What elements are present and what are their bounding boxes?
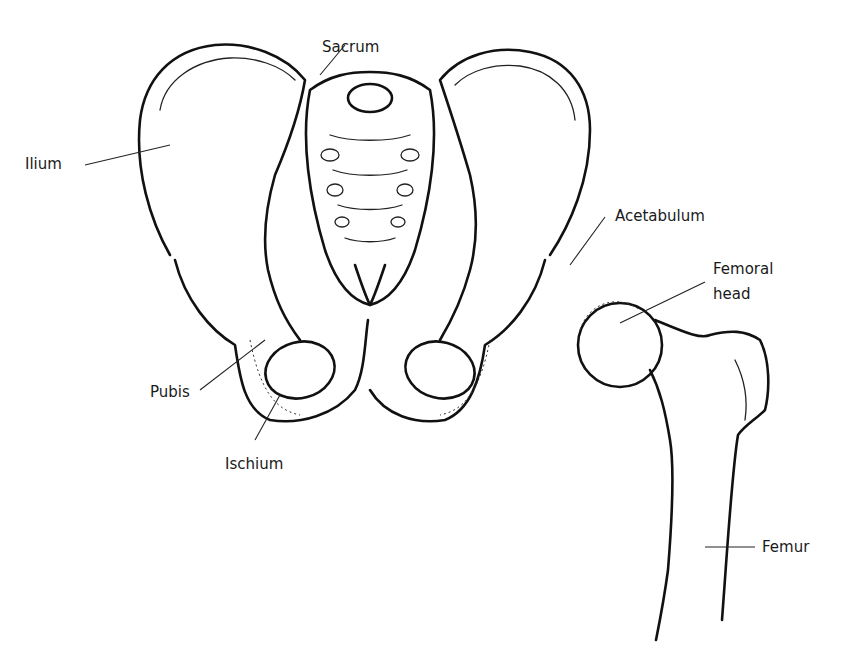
left-obturator-foramen <box>259 334 341 406</box>
label-pubis: Pubis <box>150 383 190 402</box>
pubis-leader <box>200 340 265 390</box>
sacral-canal <box>348 84 392 112</box>
ilium-leader <box>85 145 170 165</box>
label-femoral-head-line2: head <box>713 285 750 304</box>
label-acetabulum: Acetabulum <box>615 207 705 226</box>
femoral-head-outline <box>578 303 662 387</box>
anatomy-diagram: Ilium Sacrum Acetabulum Femoral head Pub… <box>0 0 856 665</box>
label-femur: Femur <box>762 538 809 557</box>
femur-outline <box>650 320 768 640</box>
ischium-leader <box>255 395 280 440</box>
sacrum-outline <box>306 72 434 305</box>
pelvis-femur-illustration <box>0 0 856 665</box>
label-ischium: Ischium <box>225 455 283 474</box>
label-sacrum: Sacrum <box>322 38 379 57</box>
right-obturator-foramen <box>399 334 481 406</box>
acetabulum-leader <box>570 217 605 265</box>
coccyx <box>355 265 385 305</box>
femoral-head-leader <box>620 282 705 323</box>
label-femoral-head-line1: Femoral <box>713 260 773 279</box>
right-ilium-outline <box>440 50 590 340</box>
left-ilium-outline <box>139 45 305 340</box>
label-ilium: Ilium <box>25 155 62 174</box>
